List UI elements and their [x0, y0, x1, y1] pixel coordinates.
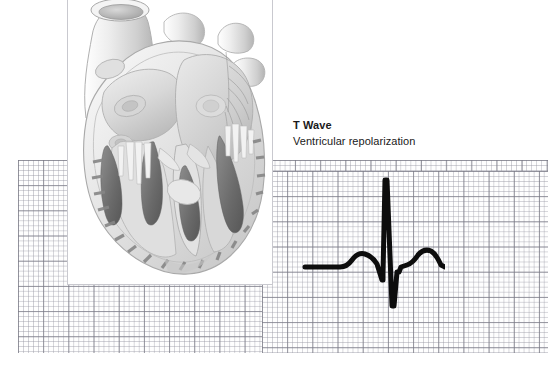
ecg-waveform	[295, 168, 445, 318]
aorta-lumen	[99, 5, 143, 20]
wave-subtitle: Ventricular repolarization	[293, 133, 493, 149]
superior-vena-cava-stub	[218, 23, 254, 53]
heart-anatomy-cross-section-icon	[68, 0, 272, 284]
wave-title: T Wave	[293, 118, 493, 133]
annotation-block: T Wave Ventricular repolarization	[293, 118, 493, 149]
fossa-ovalis-inner	[203, 100, 219, 112]
ecg-waveform-path	[305, 180, 445, 306]
ecg-t-wave-figure: T Wave Ventricular repolarization	[0, 0, 556, 370]
heart-illustration-panel	[67, 0, 273, 285]
